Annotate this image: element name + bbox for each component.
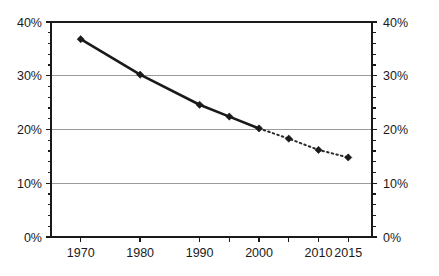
x-axis-label-1990: 1990 <box>186 246 214 260</box>
y-axis-right-label-30: 30% <box>383 69 408 83</box>
y-axis-right-label-40: 40% <box>383 16 408 30</box>
chart-background <box>0 0 439 276</box>
y-axis-right-label-10: 10% <box>383 177 408 191</box>
y-axis-left-label-40: 40% <box>17 16 42 30</box>
y-axis-right-label-20: 20% <box>383 123 408 137</box>
x-axis-label-2000: 2000 <box>245 246 273 260</box>
chart-container: 0%10%20%30%40% 0%10%20%30%40% 1970198019… <box>0 0 439 276</box>
x-axis-label-1970: 1970 <box>67 246 95 260</box>
line-chart: 0%10%20%30%40% 0%10%20%30%40% 1970198019… <box>0 0 439 276</box>
y-axis-left-label-10: 10% <box>17 177 42 191</box>
y-axis-left-label-20: 20% <box>17 123 42 137</box>
y-axis-left-label-0: 0% <box>24 231 42 245</box>
x-axis-label-1980: 1980 <box>126 246 154 260</box>
y-axis-right-label-0: 0% <box>383 231 401 245</box>
x-axis-label-2010: 2010 <box>305 246 333 260</box>
y-axis-left-label-30: 30% <box>17 69 42 83</box>
x-axis-label-2015: 2015 <box>334 246 362 260</box>
